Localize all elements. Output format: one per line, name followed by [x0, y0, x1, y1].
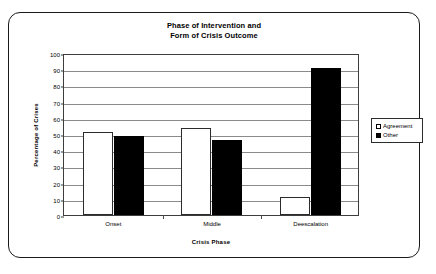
y-tick-label: 70: [53, 101, 60, 107]
bar-group: [261, 55, 360, 215]
bar-other-deescalation: [311, 68, 341, 215]
bar-agreement-deescalation: [280, 197, 310, 215]
bar-group: [64, 55, 163, 215]
x-tick-mark: [163, 215, 164, 219]
y-tick-label: 80: [53, 84, 60, 90]
x-tick-label: Middle: [203, 221, 221, 227]
chart-title-line-1: Phase of Intervention and: [9, 21, 419, 31]
bar-other-onset: [114, 136, 144, 215]
chart-title: Phase of Intervention and Form of Crisis…: [9, 21, 419, 41]
y-tick-label: 100: [50, 52, 60, 58]
y-tick-label: 20: [53, 182, 60, 188]
legend-label: Other: [383, 131, 398, 139]
bar-agreement-onset: [83, 132, 113, 215]
y-axis-title: Percentage of Crises: [31, 54, 41, 216]
plot-area: 0102030405060708090100 OnsetMiddleDeesca…: [63, 54, 359, 216]
chart-legend: AgreementOther: [371, 118, 423, 143]
legend-label: Agreement: [383, 122, 412, 130]
bar-other-middle: [212, 140, 242, 215]
y-tick-label: 60: [53, 117, 60, 123]
chart-title-line-2: Form of Crisis Outcome: [9, 31, 419, 41]
y-tick-mark: [61, 217, 64, 218]
y-tick-label: 50: [53, 133, 60, 139]
legend-item-agreement: Agreement: [376, 122, 419, 130]
chart-frame: Phase of Intervention and Form of Crisis…: [8, 12, 420, 258]
legend-swatch-agreement-icon: [376, 124, 381, 129]
y-tick-label: 30: [53, 165, 60, 171]
legend-swatch-other-icon: [376, 133, 381, 138]
y-tick-label: 10: [53, 198, 60, 204]
x-tick-label: Onset: [105, 221, 121, 227]
bar-agreement-middle: [181, 128, 211, 215]
y-tick-label: 90: [53, 68, 60, 74]
bar-group: [163, 55, 262, 215]
legend-item-other: Other: [376, 131, 419, 139]
x-axis-title: Crisis Phase: [63, 239, 359, 245]
x-tick-label: Deescalation: [293, 221, 328, 227]
y-tick-label: 0: [57, 214, 60, 220]
y-tick-label: 40: [53, 149, 60, 155]
x-tick-mark: [261, 215, 262, 219]
